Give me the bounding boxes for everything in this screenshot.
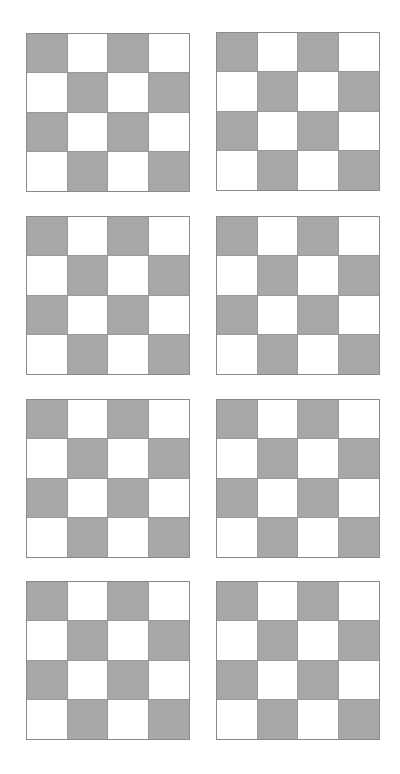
shaded-cell xyxy=(298,400,339,439)
unshaded-cell xyxy=(258,296,299,335)
unshaded-cell xyxy=(217,335,258,374)
shaded-cell xyxy=(27,582,68,621)
shaded-cell xyxy=(298,661,339,700)
unshaded-cell xyxy=(149,217,190,256)
unshaded-cell xyxy=(68,34,109,73)
shaded-cell xyxy=(68,700,109,739)
unshaded-cell xyxy=(258,400,299,439)
checkerboard-grid xyxy=(216,216,380,375)
unshaded-cell xyxy=(27,73,68,112)
shaded-cell xyxy=(149,518,190,557)
unshaded-cell xyxy=(27,335,68,374)
shaded-cell xyxy=(108,400,149,439)
shaded-cell xyxy=(217,661,258,700)
unshaded-cell xyxy=(339,217,380,256)
shaded-cell xyxy=(258,621,299,660)
shaded-cell xyxy=(149,439,190,478)
shaded-cell xyxy=(108,217,149,256)
shaded-cell xyxy=(298,296,339,335)
unshaded-cell xyxy=(217,518,258,557)
shaded-cell xyxy=(68,73,109,112)
shaded-cell xyxy=(149,152,190,191)
unshaded-cell xyxy=(108,152,149,191)
unshaded-cell xyxy=(27,621,68,660)
unshaded-cell xyxy=(68,582,109,621)
unshaded-cell xyxy=(68,296,109,335)
checkerboard-grid xyxy=(26,33,190,192)
unshaded-cell xyxy=(298,439,339,478)
unshaded-cell xyxy=(298,256,339,295)
unshaded-cell xyxy=(298,621,339,660)
shaded-cell xyxy=(27,113,68,152)
shaded-cell xyxy=(68,621,109,660)
shaded-cell xyxy=(27,479,68,518)
unshaded-cell xyxy=(217,700,258,739)
shaded-cell xyxy=(27,217,68,256)
shaded-cell xyxy=(217,296,258,335)
unshaded-cell xyxy=(149,582,190,621)
shaded-cell xyxy=(68,439,109,478)
unshaded-cell xyxy=(339,296,380,335)
unshaded-cell xyxy=(258,217,299,256)
unshaded-cell xyxy=(27,700,68,739)
shaded-cell xyxy=(108,34,149,73)
shaded-cell xyxy=(339,518,380,557)
checkerboard-grid xyxy=(216,32,380,191)
unshaded-cell xyxy=(149,34,190,73)
shaded-cell xyxy=(217,33,258,72)
shaded-cell xyxy=(258,256,299,295)
shaded-cell xyxy=(258,700,299,739)
unshaded-cell xyxy=(108,621,149,660)
shaded-cell xyxy=(108,582,149,621)
shaded-cell xyxy=(339,256,380,295)
shaded-cell xyxy=(258,335,299,374)
unshaded-cell xyxy=(27,152,68,191)
unshaded-cell xyxy=(298,335,339,374)
unshaded-cell xyxy=(339,400,380,439)
unshaded-cell xyxy=(339,112,380,151)
shaded-cell xyxy=(258,518,299,557)
checkerboard-grid xyxy=(216,581,380,740)
shaded-cell xyxy=(108,113,149,152)
unshaded-cell xyxy=(68,400,109,439)
shaded-cell xyxy=(298,582,339,621)
unshaded-cell xyxy=(217,439,258,478)
unshaded-cell xyxy=(258,661,299,700)
checkerboard-grid xyxy=(26,399,190,558)
unshaded-cell xyxy=(108,335,149,374)
unshaded-cell xyxy=(108,518,149,557)
unshaded-cell xyxy=(217,151,258,190)
unshaded-cell xyxy=(108,700,149,739)
unshaded-cell xyxy=(298,518,339,557)
unshaded-cell xyxy=(217,256,258,295)
shaded-cell xyxy=(68,335,109,374)
unshaded-cell xyxy=(27,439,68,478)
shaded-cell xyxy=(27,34,68,73)
shaded-cell xyxy=(217,582,258,621)
shaded-cell xyxy=(217,479,258,518)
unshaded-cell xyxy=(217,72,258,111)
unshaded-cell xyxy=(298,700,339,739)
unshaded-cell xyxy=(108,439,149,478)
shaded-cell xyxy=(339,700,380,739)
shaded-cell xyxy=(68,518,109,557)
unshaded-cell xyxy=(298,151,339,190)
unshaded-cell xyxy=(108,256,149,295)
shaded-cell xyxy=(68,152,109,191)
unshaded-cell xyxy=(339,582,380,621)
shaded-cell xyxy=(68,256,109,295)
checkerboard-grid xyxy=(26,581,190,740)
shaded-cell xyxy=(217,217,258,256)
shaded-cell xyxy=(339,335,380,374)
shaded-cell xyxy=(149,335,190,374)
unshaded-cell xyxy=(68,661,109,700)
checkerboard-grid xyxy=(216,399,380,558)
shaded-cell xyxy=(108,479,149,518)
shaded-cell xyxy=(149,621,190,660)
shaded-cell xyxy=(298,479,339,518)
shaded-cell xyxy=(258,151,299,190)
shaded-cell xyxy=(298,112,339,151)
unshaded-cell xyxy=(258,582,299,621)
shaded-cell xyxy=(339,621,380,660)
shaded-cell xyxy=(108,296,149,335)
